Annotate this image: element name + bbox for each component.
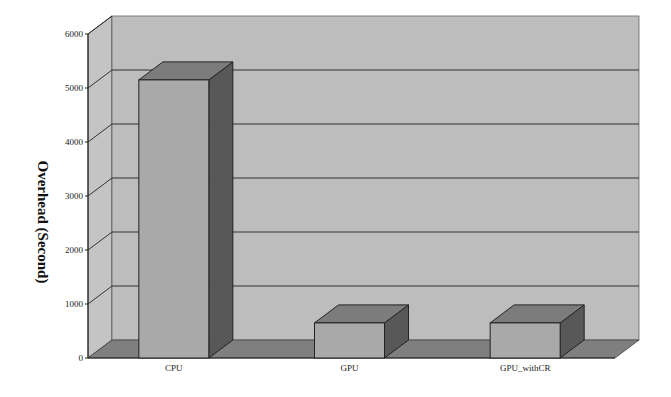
bar-side-face [209, 62, 233, 358]
bar-front-face [139, 80, 209, 358]
bar-front-face [490, 323, 560, 358]
y-axis-title: Overhead (Second) [34, 161, 51, 284]
y-tick-label: 6000 [65, 29, 84, 39]
y-tick-label: 2000 [65, 245, 84, 255]
x-axis-labels: CPUGPUGPU_withCR [165, 363, 550, 373]
bar-gpu-withcr [490, 305, 584, 358]
y-tick-label: 4000 [65, 137, 84, 147]
bar-front-face [315, 323, 385, 358]
y-tick-label: 5000 [65, 83, 84, 93]
y-tick-label: 3000 [65, 191, 84, 201]
bar-chart: 0100020003000400050006000 CPUGPUGPU_with… [0, 0, 671, 397]
x-tick-label: GPU [340, 363, 359, 373]
y-tick-label: 1000 [65, 299, 84, 309]
x-tick-label: GPU_withCR [500, 363, 551, 373]
x-tick-label: CPU [165, 363, 183, 373]
bar-gpu [315, 305, 409, 358]
y-tick-label: 0 [79, 353, 84, 363]
bar-cpu [139, 62, 233, 358]
